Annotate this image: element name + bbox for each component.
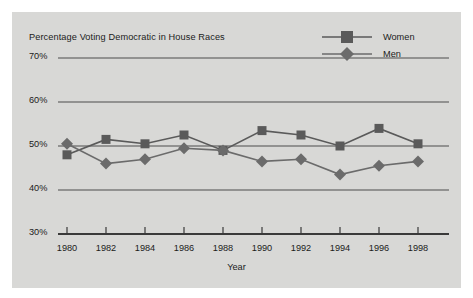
legend-swatches	[322, 31, 372, 61]
datapoint-women-1982	[102, 135, 111, 144]
chart-graphic	[12, 12, 461, 288]
figure-canvas: Percentage Voting Democratic in House Ra…	[0, 0, 473, 298]
datapoint-women-1996	[375, 124, 384, 133]
datapoint-women-1990	[258, 126, 267, 135]
datapoint-men-1986	[178, 142, 190, 154]
datapoint-men-1980	[61, 138, 73, 150]
datapoint-men-1992	[295, 153, 307, 165]
x-axis-ticks	[67, 227, 418, 234]
series-line-men	[67, 144, 418, 175]
series-line-women	[67, 128, 418, 154]
datapoint-women-1994	[336, 142, 345, 151]
data-series-layer	[61, 124, 424, 181]
legend-marker-men-diamond	[340, 47, 354, 61]
datapoint-women-1984	[141, 139, 150, 148]
plot-area: Percentage Voting Democratic in House Ra…	[12, 12, 461, 288]
legend-marker-women-square	[341, 31, 353, 43]
datapoint-men-1990	[256, 155, 268, 167]
datapoint-men-1994	[334, 169, 346, 181]
datapoint-women-1992	[297, 131, 306, 140]
datapoint-women-1980	[63, 150, 72, 159]
datapoint-men-1998	[412, 155, 424, 167]
datapoint-men-1982	[100, 158, 112, 170]
datapoint-women-1998	[414, 139, 423, 148]
datapoint-men-1984	[139, 153, 151, 165]
chart-panel: Percentage Voting Democratic in House Ra…	[12, 12, 461, 288]
datapoint-men-1996	[373, 160, 385, 172]
gridlines	[58, 58, 449, 190]
datapoint-women-1986	[180, 131, 189, 140]
